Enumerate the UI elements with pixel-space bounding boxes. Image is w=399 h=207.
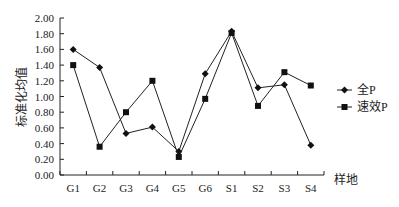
series-lines (70, 28, 315, 160)
square-marker (308, 83, 314, 89)
legend-item: 速效P (337, 99, 388, 114)
legend: 全P速效P (337, 82, 388, 114)
line-chart: 0.000.200.400.600.801.001.201.401.601.80… (0, 0, 399, 207)
x-tick-label: S4 (305, 182, 317, 194)
square-marker (176, 154, 182, 160)
series-square (70, 30, 314, 160)
y-tick-label: 0.60 (35, 122, 55, 134)
square-marker (202, 96, 208, 102)
diamond-marker (307, 142, 314, 149)
x-tick-label: G6 (198, 182, 212, 194)
legend-item: 全P (337, 82, 376, 97)
y-tick-label: 1.60 (35, 43, 55, 55)
square-marker (255, 103, 261, 109)
y-tick-label: 1.80 (35, 28, 55, 40)
x-tick-label: G2 (93, 182, 106, 194)
square-marker (149, 78, 155, 84)
diamond-marker (70, 46, 77, 53)
diamond-marker (255, 84, 262, 91)
y-tick-label: 0.40 (35, 138, 55, 150)
x-tick-label: G4 (146, 182, 160, 194)
square-marker (123, 109, 129, 115)
square-marker (281, 69, 287, 75)
y-tick-label: 1.00 (35, 91, 55, 103)
x-tick-label: S1 (226, 182, 238, 194)
x-axis: G1G2G3G4G5G6S1S2S3S4 (60, 171, 324, 194)
y-tick-label: 0.80 (35, 106, 55, 118)
diamond-marker (341, 87, 348, 94)
x-tick-label: S2 (252, 182, 264, 194)
y-tick-label: 0.00 (35, 169, 55, 181)
y-axis: 0.000.200.400.600.801.001.201.401.601.80… (35, 12, 64, 181)
y-tick-label: 1.40 (35, 59, 55, 71)
square-marker (97, 144, 103, 150)
x-tick-label: G3 (119, 182, 133, 194)
diamond-marker (123, 130, 130, 137)
diamond-marker (96, 64, 103, 71)
x-tick-label: G1 (66, 182, 79, 194)
y-tick-label: 0.20 (35, 153, 55, 165)
square-marker (229, 30, 235, 36)
square-marker (70, 62, 76, 68)
y-tick-label: 1.20 (35, 75, 55, 87)
x-axis-label: 样地 (334, 172, 358, 187)
x-tick-label: S3 (279, 182, 291, 194)
series-diamond (70, 28, 315, 155)
diamond-marker (202, 70, 209, 77)
y-tick-label: 2.00 (35, 12, 55, 24)
diamond-marker (281, 81, 288, 88)
x-tick-label: G5 (172, 182, 186, 194)
square-marker (342, 104, 348, 110)
legend-label: 速效P (357, 99, 388, 114)
legend-label: 全P (357, 82, 376, 97)
y-axis-label: 标准化均值 (14, 67, 29, 127)
